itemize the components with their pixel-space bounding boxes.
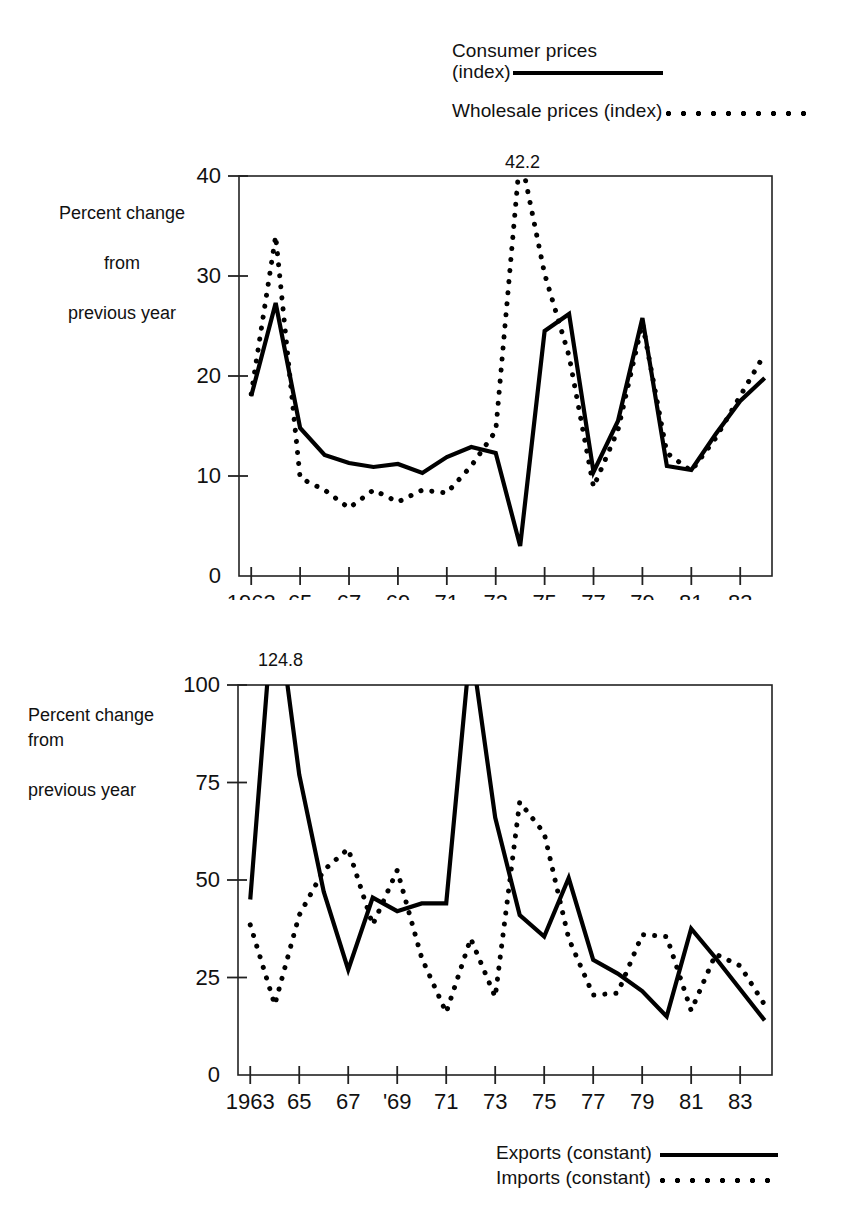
legend-dotted-line-swatch [665, 110, 815, 117]
series-line-solid [251, 303, 764, 546]
x-tick-label: 79 [630, 590, 654, 600]
y-tick-label: 50 [196, 867, 220, 892]
legend-bottom: Exports (constant) Imports (constant) [496, 1140, 846, 1190]
x-tick-label: 77 [581, 590, 605, 600]
x-tick-label: 67 [337, 590, 361, 600]
legend-bottom-entry-exports: Exports (constant) [496, 1140, 846, 1165]
x-tick-label: 1963 [226, 1089, 275, 1114]
x-tick-label: '69 [383, 1089, 412, 1114]
y-tick-label: 20 [197, 363, 221, 388]
y-tick-label: 0 [208, 1062, 220, 1087]
x-tick-label: 71 [434, 1089, 458, 1114]
x-tick-label: 75 [532, 1089, 556, 1114]
x-tick-label: 1963 [227, 590, 276, 600]
plot-frame [239, 176, 772, 576]
chart-exports-imports: Percent change from previous year 124.8 … [0, 648, 846, 1118]
y-tick-label: 30 [197, 263, 221, 288]
y-tick-label: 25 [196, 965, 220, 990]
chart-consumer-wholesale-prices: Percent change from previous year 42.2 0… [0, 160, 846, 600]
legend-top-entry-wholesale: Wholesale prices (index) [452, 98, 846, 124]
legend-top-consumer-label-line2: (index) [452, 59, 511, 84]
plot-area-top: 010203040196365676971737577798183 [0, 160, 846, 600]
x-tick-label: 75 [532, 590, 556, 600]
x-tick-label: 67 [336, 1089, 360, 1114]
y-tick-label: 40 [197, 163, 221, 188]
x-tick-label: 69 [386, 590, 410, 600]
y-tick-label: 0 [209, 563, 221, 588]
plot-area-bottom: 025507510019636567'6971737577798183 [0, 648, 846, 1118]
legend-top: Consumer prices (index) Wholesale prices… [452, 38, 846, 124]
x-tick-label: 81 [679, 1089, 703, 1114]
x-tick-label: 79 [630, 1089, 654, 1114]
x-tick-label: 73 [483, 1089, 507, 1114]
series-line-solid [250, 648, 764, 1020]
y-tick-label: 100 [183, 672, 220, 697]
legend-bottom-entry-imports: Imports (constant) [496, 1165, 846, 1190]
legend-bottom-imports-label: Imports (constant) [496, 1165, 651, 1190]
x-tick-label: 65 [288, 590, 312, 600]
y-tick-label: 75 [196, 770, 220, 795]
x-tick-label: 77 [581, 1089, 605, 1114]
x-tick-label: 83 [728, 1089, 752, 1114]
x-tick-label: 81 [679, 590, 703, 600]
legend-bottom-exports-label: Exports (constant) [496, 1140, 652, 1165]
legend-top-wholesale-label: Wholesale prices (index) [452, 98, 662, 124]
legend-solid-line-swatch [513, 71, 663, 75]
y-tick-label: 10 [197, 463, 221, 488]
x-tick-label: 73 [483, 590, 507, 600]
x-tick-label: 71 [435, 590, 459, 600]
legend-bottom-solid-swatch [660, 1153, 778, 1157]
figure-page: Consumer prices (index) Wholesale prices… [0, 0, 846, 1216]
x-tick-label: 83 [728, 590, 752, 600]
plot-frame [238, 685, 772, 1075]
x-tick-label: 65 [287, 1089, 311, 1114]
legend-bottom-dotted-swatch [659, 1177, 777, 1184]
